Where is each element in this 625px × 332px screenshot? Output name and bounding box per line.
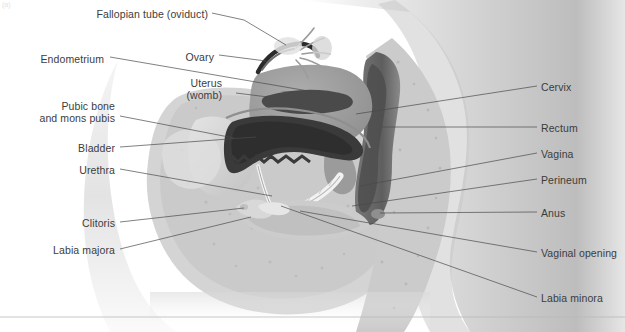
label-endometrium: Endometrium xyxy=(40,54,104,66)
label-labia-majora: Labia majora xyxy=(53,245,115,257)
label-pubic-bone: Pubic bone and mons pubis xyxy=(39,101,115,124)
label-vagina: Vagina xyxy=(541,149,574,161)
label-cervix: Cervix xyxy=(541,82,571,94)
ovary xyxy=(274,37,302,55)
label-urethra: Urethra xyxy=(79,165,115,177)
label-fallopian-tube: Fallopian tube (oviduct) xyxy=(96,9,208,21)
label-vaginal-opening: Vaginal opening xyxy=(541,248,617,260)
label-uterus: Uterus (womb) xyxy=(186,78,222,101)
anus xyxy=(371,209,385,219)
label-anus: Anus xyxy=(541,208,565,220)
label-ovary: Ovary xyxy=(185,52,214,64)
figure-canvas: (a) xyxy=(0,0,625,332)
label-rectum: Rectum xyxy=(541,123,578,135)
clitoris xyxy=(240,204,248,210)
label-bladder: Bladder xyxy=(78,143,115,155)
label-perineum: Perineum xyxy=(541,175,587,187)
label-clitoris: Clitoris xyxy=(82,218,115,230)
label-labia-minora: Labia minora xyxy=(541,293,603,305)
